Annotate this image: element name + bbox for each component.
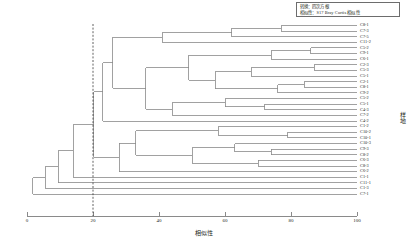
x-axis-title: 相似性 bbox=[195, 228, 213, 237]
x-tick-label: 20 bbox=[91, 218, 96, 223]
leaf-label: C6-1 bbox=[360, 57, 369, 61]
leaf-label: C11-2 bbox=[360, 40, 371, 44]
x-tick-label: 0 bbox=[26, 218, 29, 223]
leaf-label: C7-3 bbox=[360, 29, 369, 33]
x-tick-label: 100 bbox=[353, 218, 361, 223]
dendrogram-figure: 转换：四次方根 相似性：S17 Bray Curtis 相似性 C8-1C7-3… bbox=[0, 0, 409, 243]
leaf-label: C9-3 bbox=[360, 147, 369, 151]
x-tick-label: 40 bbox=[157, 218, 162, 223]
leaf-label: C7-1 bbox=[360, 192, 369, 196]
leaf-label: C10-3 bbox=[360, 141, 371, 145]
leaf-label: C5-2 bbox=[360, 96, 369, 100]
leaf-label: C1-3 bbox=[360, 186, 369, 190]
x-tick-label: 80 bbox=[289, 218, 294, 223]
dendrogram-svg bbox=[0, 0, 409, 243]
leaf-label: C7-2 bbox=[360, 113, 369, 117]
y-axis-title: 样地 bbox=[398, 112, 407, 124]
leaf-label: C5-1 bbox=[360, 74, 369, 78]
leaf-label: C10-2 bbox=[360, 130, 371, 134]
x-tick-label: 60 bbox=[223, 218, 228, 223]
leaf-label: C8-1 bbox=[360, 85, 369, 89]
leaf-label: C1-1 bbox=[360, 175, 369, 179]
leaf-label: C5-3 bbox=[360, 68, 369, 72]
leaf-label: C6-3 bbox=[360, 158, 369, 162]
leaf-label: C8-1 bbox=[360, 23, 369, 27]
plot-area bbox=[0, 0, 409, 243]
leaf-label: C5-1 bbox=[360, 102, 369, 106]
